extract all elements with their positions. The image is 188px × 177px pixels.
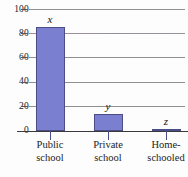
bar-value-label-y: y <box>98 101 118 112</box>
ytick-mark-100 <box>21 9 28 10</box>
bar-value-label-z: z <box>156 116 176 127</box>
category-label-private-school-line2: school <box>75 151 141 164</box>
gridline-100 <box>29 9 185 10</box>
category-label-home-schooled-line1: Home- <box>133 138 188 151</box>
category-label-home-schooled-line2: schooled <box>133 151 188 164</box>
bar-chart: 100 80 60 40 20 0 x y z Public school <box>0 0 188 177</box>
category-label-public-school-line2: school <box>17 151 83 164</box>
category-label-private-school: Private school <box>75 138 141 164</box>
category-label-public-school-line1: Public <box>17 138 83 151</box>
ytick-mark-40 <box>21 82 28 83</box>
category-label-home-schooled: Home- schooled <box>133 138 188 164</box>
ytick-mark-80 <box>21 33 28 34</box>
bar-public-school <box>36 27 65 131</box>
category-label-public-school: Public school <box>17 138 83 164</box>
bar-private-school <box>94 114 123 131</box>
x-axis-line <box>17 131 188 132</box>
ytick-mark-60 <box>21 57 28 58</box>
y-axis-line <box>28 9 29 132</box>
category-label-private-school-line1: Private <box>75 138 141 151</box>
ytick-mark-20 <box>21 106 28 107</box>
bar-value-label-x: x <box>40 14 60 25</box>
